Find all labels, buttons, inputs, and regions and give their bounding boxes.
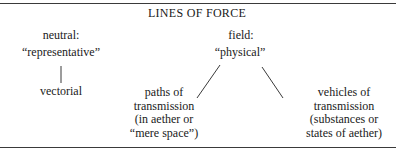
physical-to-vehicles-connector [262, 67, 283, 98]
physical-term: “physical” [215, 46, 266, 59]
paths-line-1: paths of [130, 86, 198, 100]
paths-line-2: transmission [130, 100, 198, 114]
bottom-rule [0, 147, 396, 148]
field-label: field: [228, 29, 253, 42]
vehicles-of-transmission-block: vehicles of transmission (substances or … [306, 86, 382, 140]
vehicles-line-4: states of aether) [306, 127, 382, 141]
vehicles-line-1: vehicles of [306, 86, 382, 100]
paths-line-3: (in aether or [130, 113, 198, 127]
paths-of-transmission-block: paths of transmission (in aether or “mer… [130, 86, 198, 140]
paths-line-4: “mere space”) [130, 127, 198, 141]
diagram-title: LINES OF FORCE [148, 6, 246, 21]
top-rule [0, 3, 396, 4]
vehicles-line-2: transmission [306, 100, 382, 114]
vehicles-line-3: (substances or [306, 113, 382, 127]
representative-term: “representative” [22, 46, 100, 59]
physical-to-paths-connector [197, 65, 220, 98]
neutral-label: neutral: [43, 29, 80, 42]
vectorial-label: vectorial [40, 85, 82, 98]
